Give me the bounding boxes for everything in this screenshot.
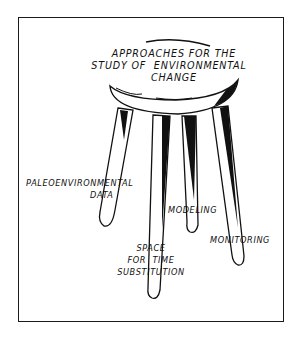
- title-line-3: CHANGE: [84, 72, 264, 84]
- label-space-line-2: FOR TIME: [112, 254, 190, 266]
- title-text: APPROACHES FOR THE STUDY OF ENVIRONMENTA…: [84, 48, 264, 84]
- label-monitoring-line-1: MONITORING: [210, 234, 270, 246]
- label-paleoenvironmental: PALEOENVIRONMENTAL DATA: [26, 177, 146, 201]
- label-modeling-line-1: MODELING: [168, 204, 217, 216]
- label-monitoring: MONITORING: [210, 234, 270, 246]
- label-space-for-time: SPACE FOR TIME SUBSTITUTION: [112, 242, 190, 278]
- label-modeling: MODELING: [168, 204, 217, 216]
- leg-paleoenvironmental: [100, 108, 134, 226]
- label-paleo-line-2: DATA: [26, 189, 146, 201]
- label-space-line-3: SUBSTITUTION: [112, 266, 190, 278]
- label-space-line-1: SPACE: [112, 242, 190, 254]
- label-paleo-line-1: PALEOENVIRONMENTAL: [26, 177, 146, 189]
- title-line-2: STUDY OF ENVIRONMENTAL: [74, 60, 264, 72]
- title-line-1: APPROACHES FOR THE: [84, 48, 264, 60]
